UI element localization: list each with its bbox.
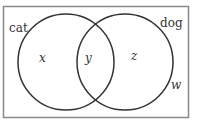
z-region-label: z <box>130 49 138 63</box>
x-region-label: x <box>39 51 46 65</box>
y-intersection-label: y <box>84 51 92 65</box>
cat-label: cat <box>9 21 28 35</box>
w-universe-label: w <box>171 78 182 92</box>
venn-diagram: cat dog x y z w <box>0 0 200 129</box>
dog-label: dog <box>160 16 183 30</box>
